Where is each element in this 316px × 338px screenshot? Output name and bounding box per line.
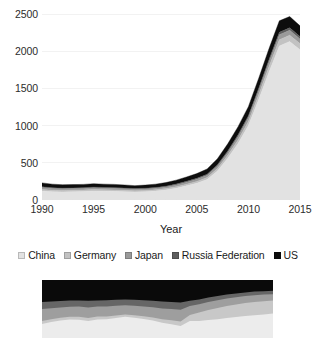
legend-swatch-icon	[64, 252, 71, 259]
main-plot-area	[42, 14, 300, 200]
x-tick-label: 2000	[125, 204, 165, 215]
legend-label: China	[28, 250, 55, 261]
legend-swatch-icon	[172, 252, 179, 259]
bottom-plot-area	[42, 280, 273, 338]
main-stacked-area-chart: 2500 2000 1500 1000 500 0 1990 1995 2000…	[0, 0, 316, 246]
legend-label: Germany	[74, 250, 116, 261]
legend-item-russia-federation[interactable]: Russia Federation	[172, 250, 265, 261]
x-tick-label: 1995	[74, 204, 114, 215]
y-tick-label: 1500	[2, 83, 38, 94]
area-band-china	[42, 42, 300, 200]
y-tick-label: 2500	[2, 9, 38, 20]
y-tick-label: 1000	[2, 121, 38, 132]
chart-figure: 2500 2000 1500 1000 500 0 1990 1995 2000…	[0, 0, 316, 338]
legend-swatch-icon	[18, 252, 25, 259]
chart-legend: China Germany Japan Russia Federation US	[0, 247, 316, 263]
legend-label: Japan	[135, 250, 163, 261]
legend-label: Russia Federation	[182, 250, 265, 261]
x-tick-label: 2010	[228, 204, 268, 215]
legend-swatch-icon	[125, 252, 132, 259]
x-tick-label: 2015	[280, 204, 316, 215]
y-tick-label: 2000	[2, 46, 38, 57]
y-tick-label: 500	[2, 158, 38, 169]
bottom-plot-svg	[42, 280, 273, 338]
x-axis-title: Year	[42, 224, 300, 235]
legend-item-japan[interactable]: Japan	[125, 250, 163, 261]
x-tick-label: 1990	[22, 204, 62, 215]
main-plot-svg	[42, 14, 300, 200]
legend-swatch-icon	[274, 252, 281, 259]
legend-label: US	[284, 250, 298, 261]
legend-item-germany[interactable]: Germany	[64, 250, 116, 261]
legend-item-china[interactable]: China	[18, 250, 55, 261]
x-tick-label: 2005	[177, 204, 217, 215]
bottom-share-chart: 100% 80%	[0, 268, 316, 338]
legend-item-us[interactable]: US	[274, 250, 298, 261]
